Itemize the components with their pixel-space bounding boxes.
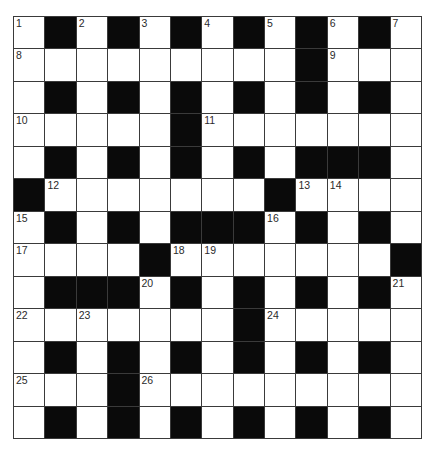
letter-cell[interactable] [328, 342, 358, 373]
letter-cell[interactable]: 11 [202, 114, 232, 145]
letter-cell[interactable] [202, 407, 232, 438]
letter-cell[interactable] [265, 342, 295, 373]
letter-cell[interactable] [171, 309, 201, 340]
letter-cell[interactable] [140, 407, 170, 438]
letter-cell[interactable]: 26 [140, 374, 170, 405]
letter-cell[interactable]: 24 [265, 309, 295, 340]
letter-cell[interactable]: 3 [140, 17, 170, 48]
letter-cell[interactable]: 18 [171, 244, 201, 275]
letter-cell[interactable]: 20 [140, 277, 170, 308]
letter-cell[interactable] [391, 309, 421, 340]
letter-cell[interactable] [359, 114, 389, 145]
letter-cell[interactable] [391, 147, 421, 178]
letter-cell[interactable] [77, 407, 107, 438]
letter-cell[interactable] [77, 212, 107, 243]
letter-cell[interactable] [77, 179, 107, 210]
letter-cell[interactable] [202, 342, 232, 373]
letter-cell[interactable] [140, 147, 170, 178]
letter-cell[interactable] [296, 114, 326, 145]
letter-cell[interactable] [202, 374, 232, 405]
letter-cell[interactable] [391, 82, 421, 113]
letter-cell[interactable] [14, 82, 44, 113]
letter-cell[interactable] [391, 374, 421, 405]
letter-cell[interactable] [14, 407, 44, 438]
letter-cell[interactable] [77, 374, 107, 405]
letter-cell[interactable] [140, 342, 170, 373]
letter-cell[interactable] [234, 49, 264, 80]
letter-cell[interactable] [45, 244, 75, 275]
letter-cell[interactable] [140, 82, 170, 113]
letter-cell[interactable] [234, 179, 264, 210]
letter-cell[interactable] [202, 277, 232, 308]
letter-cell[interactable]: 6 [328, 17, 358, 48]
letter-cell[interactable] [265, 147, 295, 178]
letter-cell[interactable] [265, 277, 295, 308]
letter-cell[interactable] [202, 179, 232, 210]
letter-cell[interactable] [108, 309, 138, 340]
letter-cell[interactable] [140, 114, 170, 145]
letter-cell[interactable] [140, 179, 170, 210]
letter-cell[interactable] [140, 212, 170, 243]
letter-cell[interactable]: 21 [391, 277, 421, 308]
letter-cell[interactable]: 17 [14, 244, 44, 275]
letter-cell[interactable]: 14 [328, 179, 358, 210]
letter-cell[interactable]: 15 [14, 212, 44, 243]
letter-cell[interactable] [202, 309, 232, 340]
letter-cell[interactable] [108, 179, 138, 210]
letter-cell[interactable] [265, 114, 295, 145]
letter-cell[interactable]: 10 [14, 114, 44, 145]
letter-cell[interactable] [45, 49, 75, 80]
letter-cell[interactable] [328, 407, 358, 438]
letter-cell[interactable] [391, 342, 421, 373]
letter-cell[interactable] [77, 82, 107, 113]
letter-cell[interactable]: 13 [296, 179, 326, 210]
letter-cell[interactable] [77, 49, 107, 80]
letter-cell[interactable] [234, 374, 264, 405]
letter-cell[interactable]: 4 [202, 17, 232, 48]
letter-cell[interactable] [359, 374, 389, 405]
letter-cell[interactable] [234, 244, 264, 275]
letter-cell[interactable] [359, 179, 389, 210]
letter-cell[interactable] [328, 374, 358, 405]
letter-cell[interactable] [108, 114, 138, 145]
letter-cell[interactable] [391, 114, 421, 145]
letter-cell[interactable] [296, 374, 326, 405]
letter-cell[interactable] [296, 244, 326, 275]
letter-cell[interactable] [171, 179, 201, 210]
letter-cell[interactable]: 16 [265, 212, 295, 243]
letter-cell[interactable]: 12 [45, 179, 75, 210]
letter-cell[interactable] [171, 49, 201, 80]
letter-cell[interactable] [328, 309, 358, 340]
letter-cell[interactable] [77, 114, 107, 145]
letter-cell[interactable] [140, 49, 170, 80]
letter-cell[interactable] [265, 407, 295, 438]
letter-cell[interactable]: 9 [328, 49, 358, 80]
letter-cell[interactable] [108, 244, 138, 275]
letter-cell[interactable] [328, 212, 358, 243]
letter-cell[interactable] [45, 309, 75, 340]
letter-cell[interactable]: 2 [77, 17, 107, 48]
letter-cell[interactable] [296, 309, 326, 340]
letter-cell[interactable] [45, 114, 75, 145]
letter-cell[interactable] [202, 147, 232, 178]
letter-cell[interactable] [391, 212, 421, 243]
letter-cell[interactable] [265, 82, 295, 113]
letter-cell[interactable] [234, 114, 264, 145]
letter-cell[interactable]: 7 [391, 17, 421, 48]
letter-cell[interactable] [202, 82, 232, 113]
letter-cell[interactable] [391, 407, 421, 438]
letter-cell[interactable]: 1 [14, 17, 44, 48]
letter-cell[interactable] [77, 342, 107, 373]
letter-cell[interactable] [265, 244, 295, 275]
letter-cell[interactable] [77, 147, 107, 178]
letter-cell[interactable]: 5 [265, 17, 295, 48]
letter-cell[interactable] [14, 277, 44, 308]
letter-cell[interactable] [328, 114, 358, 145]
letter-cell[interactable] [171, 374, 201, 405]
letter-cell[interactable] [77, 244, 107, 275]
letter-cell[interactable] [265, 49, 295, 80]
letter-cell[interactable] [202, 49, 232, 80]
letter-cell[interactable]: 23 [77, 309, 107, 340]
letter-cell[interactable] [391, 49, 421, 80]
letter-cell[interactable] [140, 309, 170, 340]
